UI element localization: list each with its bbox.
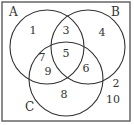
region-value: 6 [83, 62, 90, 75]
region-value: 4 [99, 26, 106, 39]
region-value: 10 [106, 93, 120, 106]
set-label-a: A [8, 5, 18, 19]
venn-svg: ABC 13475698210 [0, 0, 134, 125]
venn-diagram: ABC 13475698210 [0, 0, 134, 125]
region-value: 5 [63, 47, 70, 60]
region-value: 7 [39, 51, 46, 64]
region-value: 1 [30, 24, 37, 37]
region-value: 2 [113, 77, 120, 90]
region-value: 8 [61, 88, 68, 101]
set-label-b: B [111, 5, 120, 19]
region-value: 9 [45, 65, 52, 78]
region-value: 3 [63, 24, 70, 37]
set-label-c: C [25, 100, 34, 114]
